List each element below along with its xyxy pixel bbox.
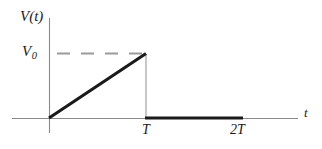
x-axis-label: t (304, 106, 308, 119)
x-tick-label-T: T (142, 123, 150, 137)
x-tick-label-2T: 2T (230, 123, 245, 137)
waveform-figure: V(t) V0 t T 2T (0, 0, 322, 149)
y-value-label: V0 (22, 44, 36, 59)
ramp-segment (49, 54, 146, 119)
plot-canvas (0, 0, 322, 149)
y-axis-label: V(t) (20, 9, 43, 24)
y-value-symbol: V (22, 43, 31, 59)
y-value-subscript: 0 (32, 50, 37, 61)
